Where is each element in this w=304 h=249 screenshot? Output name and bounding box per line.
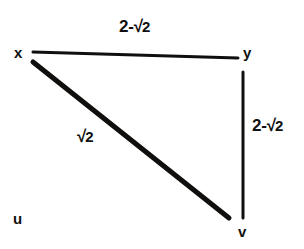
edge-xv-radicand: 2: [85, 128, 93, 145]
graph-diagram-figure: x y u v 2-√2 2-√2 √2: [0, 0, 304, 249]
edge-weight-label-yv: 2-√2: [252, 117, 283, 134]
edge-weight-label-xy: 2-√2: [119, 18, 150, 35]
edge-yv-prefix: 2-: [252, 116, 267, 135]
edge-x-y: [33, 52, 238, 58]
edge-weight-label-xv: √2: [77, 128, 94, 145]
vertex-label-y: y: [243, 45, 251, 60]
edge-xy-radicand: 2: [142, 18, 150, 35]
radical-icon: √: [134, 17, 142, 36]
edge-yv-radicand: 2: [275, 117, 283, 134]
vertex-label-v: v: [238, 224, 246, 239]
radical-icon: √: [267, 116, 275, 135]
edge-xy-prefix: 2-: [119, 17, 134, 36]
vertex-label-x: x: [14, 45, 22, 60]
vertex-label-u: u: [13, 211, 22, 226]
edge-x-v: [33, 62, 229, 218]
